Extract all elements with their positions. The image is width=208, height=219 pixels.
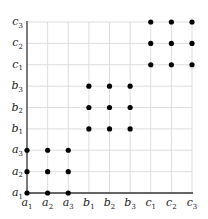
data-point bbox=[45, 148, 50, 153]
data-point bbox=[169, 62, 174, 67]
y-tick-label: a1 bbox=[12, 186, 23, 201]
data-point bbox=[189, 62, 194, 67]
x-tick-label: a3 bbox=[63, 196, 74, 211]
y-tick-label: b1 bbox=[11, 122, 23, 137]
y-tick-label: c1 bbox=[12, 58, 23, 73]
data-point bbox=[107, 84, 112, 89]
data-point bbox=[24, 190, 29, 195]
y-axis-labels: a1a2a3b1b2b3c1c2c3 bbox=[11, 15, 23, 201]
data-point bbox=[189, 19, 194, 24]
data-point bbox=[128, 84, 133, 89]
x-tick-label: b3 bbox=[124, 196, 136, 211]
x-tick-label: a2 bbox=[42, 196, 53, 211]
data-point bbox=[148, 41, 153, 46]
data-point bbox=[86, 126, 91, 131]
data-point bbox=[169, 19, 174, 24]
x-tick-label: c1 bbox=[145, 196, 156, 211]
data-point bbox=[66, 190, 71, 195]
product-grid-diagram: a1a2a3b1b2b3c1c2c3 a1a2a3b1b2b3c1c2c3 bbox=[0, 0, 208, 219]
x-tick-label: b2 bbox=[104, 196, 116, 211]
data-point bbox=[169, 41, 174, 46]
y-tick-label: c2 bbox=[12, 36, 23, 51]
data-point bbox=[45, 190, 50, 195]
data-point bbox=[128, 105, 133, 110]
data-point bbox=[189, 41, 194, 46]
y-tick-label: a3 bbox=[12, 143, 23, 158]
data-point bbox=[107, 105, 112, 110]
data-point bbox=[24, 169, 29, 174]
data-point bbox=[148, 62, 153, 67]
y-tick-label: b2 bbox=[11, 101, 23, 116]
data-point bbox=[86, 84, 91, 89]
data-point bbox=[45, 169, 50, 174]
x-axis-labels: a1a2a3b1b2b3c1c2c3 bbox=[21, 196, 197, 211]
data-point bbox=[148, 19, 153, 24]
y-tick-label: a2 bbox=[12, 165, 23, 180]
data-point bbox=[66, 148, 71, 153]
data-point bbox=[107, 126, 112, 131]
x-tick-label: a1 bbox=[21, 196, 32, 211]
x-tick-label: b1 bbox=[83, 196, 95, 211]
x-tick-label: c2 bbox=[166, 196, 177, 211]
y-tick-label: b3 bbox=[11, 79, 23, 94]
y-tick-label: c3 bbox=[12, 15, 23, 30]
x-tick-label: c3 bbox=[187, 196, 198, 211]
data-point bbox=[86, 105, 91, 110]
data-point bbox=[66, 169, 71, 174]
data-point bbox=[128, 126, 133, 131]
data-point bbox=[24, 148, 29, 153]
